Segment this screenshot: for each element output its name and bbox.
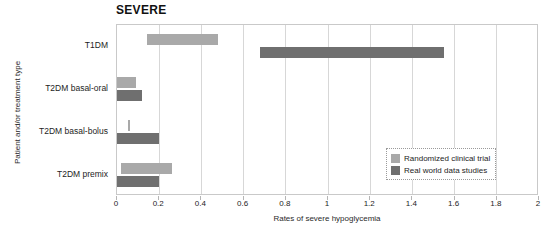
legend-label: Randomized clinical trial [404, 154, 490, 163]
x-axis-tick-label: 1.4 [406, 199, 417, 208]
x-axis-tick-label: 1 [325, 199, 329, 208]
legend-item[interactable]: Real world data studies [391, 164, 490, 176]
bar-rct [117, 77, 136, 88]
y-axis-category-labels: T1DMT2DM basal-oralT2DM basal-bolusT2DM … [0, 24, 112, 195]
gridline [243, 25, 244, 194]
legend-label: Real world data studies [404, 166, 487, 175]
gridline [496, 25, 497, 194]
x-axis-tick-label: 1.2 [364, 199, 375, 208]
x-axis-tick-label: 0.2 [153, 199, 164, 208]
x-axis-tick-label: 1.8 [490, 199, 501, 208]
x-axis-tick-label: 0.4 [195, 199, 206, 208]
gridline [201, 25, 202, 194]
x-axis-tick-label: 2 [536, 199, 540, 208]
x-axis-tick-label: 0.8 [279, 199, 290, 208]
x-axis-tick-label: 0.6 [237, 199, 248, 208]
chart-container: SEVERE Patient and/or treatment type T1D… [0, 0, 544, 235]
legend-swatch-icon [391, 166, 400, 175]
bar-rct [147, 34, 219, 45]
y-axis-label: T1DM [0, 40, 108, 50]
bar-rwd [117, 133, 159, 144]
bar-rwd [117, 176, 159, 187]
legend-item[interactable]: Randomized clinical trial [391, 152, 490, 164]
y-axis-label: T2DM premix [0, 169, 108, 179]
x-axis-tick-label: 0 [114, 199, 118, 208]
x-axis-tick-label: 1.6 [448, 199, 459, 208]
x-axis-title: Rates of severe hypoglycemia [116, 214, 538, 223]
y-axis-label: T2DM basal-oral [0, 83, 108, 93]
bar-rct [121, 163, 172, 174]
bar-rwd [117, 90, 142, 101]
legend-swatch-icon [391, 154, 400, 163]
chart-title: SEVERE [116, 3, 167, 17]
bar-rwd [260, 47, 444, 58]
chart-legend: Randomized clinical trialReal world data… [386, 148, 496, 180]
bar-rct [128, 120, 130, 131]
y-axis-label: T2DM basal-bolus [0, 126, 108, 136]
